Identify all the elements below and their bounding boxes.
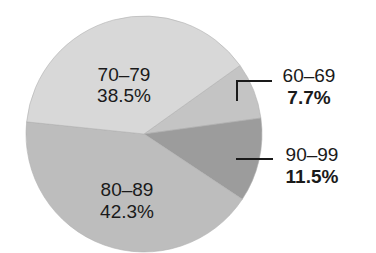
slice-category-label: 70–79 (98, 64, 151, 85)
slice-category-label: 80–89 (101, 179, 154, 200)
slice-percent-label: 42.3% (100, 201, 154, 222)
slice-category-label: 90–99 (286, 144, 339, 165)
pie-chart: 60–697.7%90–9911.5%80–8942.3%70–7938.5% (0, 0, 376, 253)
slice-percent-label: 7.7% (287, 87, 330, 108)
slice-percent-label: 11.5% (286, 166, 339, 187)
slice-percent-label: 38.5% (97, 85, 151, 106)
slice-category-label: 60–69 (283, 65, 336, 86)
